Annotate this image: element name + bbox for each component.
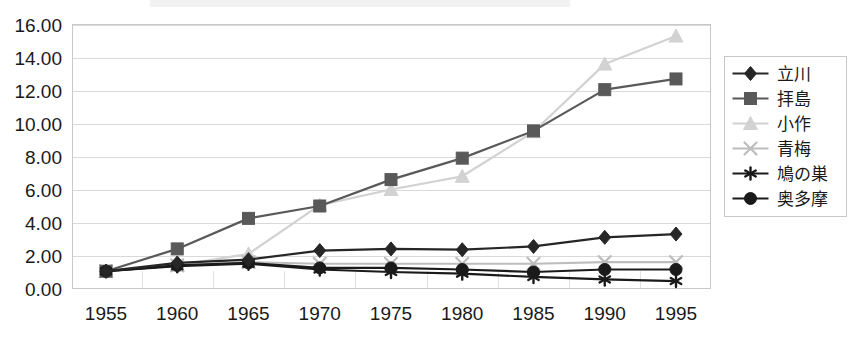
x-axis-tick-label: 1960 [156,303,198,324]
data-point-diamond-marker [456,243,468,257]
legend-item-label: 鳩の巣 [777,164,828,184]
y-axis-tick-label: 14.00 [14,48,62,69]
data-point-diamond-marker [599,230,611,244]
data-point-diamond-marker [385,242,397,256]
data-point-circle-marker [314,262,326,274]
y-axis-tick-label: 16.00 [14,15,62,36]
data-point-square-marker [745,93,757,105]
data-point-square-marker [171,243,183,255]
legend-item-label: 奥多摩 [777,189,828,209]
data-point-square-marker [599,84,611,96]
data-point-diamond-marker [314,244,326,258]
series-小作 [99,29,683,277]
y-axis-ticks: 0.002.004.006.008.0010.0012.0014.0016.00 [14,15,62,300]
data-point-square-marker [456,152,468,164]
data-point-square-marker [385,174,397,186]
x-axis-tick-label: 1955 [85,303,127,324]
data-point-diamond-marker [670,227,682,241]
data-point-diamond-marker [528,239,540,253]
legend-item-label: 拝島 [777,89,811,109]
legend-item-label: 立川 [777,64,811,84]
x-axis-tick-label: 1995 [655,303,697,324]
data-point-circle-marker [456,264,468,276]
y-axis-tick-label: 4.00 [25,213,62,234]
y-axis-tick-label: 10.00 [14,114,62,135]
x-axis-ticks: 195519601965197019751980198519901995 [85,303,697,324]
series-line [106,36,676,271]
y-axis-tick-label: 0.00 [25,279,62,300]
x-axis-tick-label: 1980 [441,303,483,324]
x-axis-tick-label: 1970 [299,303,341,324]
legend-item-label: 青梅 [777,139,811,159]
y-axis-tick-label: 6.00 [25,180,62,201]
series-layer [99,29,683,287]
data-point-square-marker [314,200,326,212]
x-axis-tick-label: 1985 [512,303,554,324]
data-point-circle-marker [599,264,611,276]
chart-legend[interactable]: 立川拝島小作青梅鳩の巣奥多摩 [725,57,847,217]
data-point-square-marker [670,73,682,85]
y-axis-tick-label: 12.00 [14,81,62,102]
data-point-square-marker [528,125,540,137]
data-point-circle-marker [670,264,682,276]
data-point-triangle-marker [598,57,612,70]
chart-canvas: 0.002.004.006.008.0010.0012.0014.0016.00… [0,0,852,342]
data-point-square-marker [243,212,255,224]
x-axis-tick-label: 1990 [584,303,626,324]
x-axis-tick-label: 1965 [227,303,269,324]
legend-item-label: 小作 [777,114,811,134]
x-axis-tick-label: 1975 [370,303,412,324]
line-chart: 0.002.004.006.008.0010.0012.0014.0016.00… [0,0,852,342]
data-point-circle-marker [385,262,397,274]
data-point-triangle-marker [455,169,469,182]
data-point-circle-marker [528,266,540,278]
y-axis-tick-label: 2.00 [25,246,62,267]
data-point-triangle-marker [669,29,683,42]
data-point-circle-marker [745,193,757,205]
y-axis-tick-label: 8.00 [25,147,62,168]
